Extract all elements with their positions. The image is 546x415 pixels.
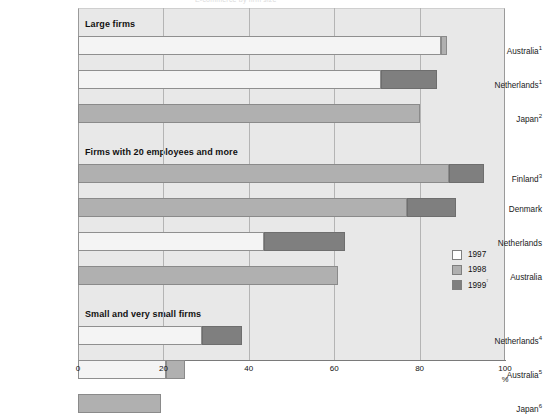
bar-segment-1999	[407, 198, 456, 217]
bar-segment-1998	[166, 360, 185, 379]
plot-area: Large firmsFirms with 20 employees and m…	[78, 8, 505, 360]
legend: 199719981999⁷	[452, 248, 488, 293]
x-tick-60: 60	[330, 364, 339, 373]
gridline-60	[334, 8, 335, 360]
legend-swatch-1997	[452, 250, 462, 260]
chart-title-clipped: E-commerce by firm size	[195, 0, 395, 4]
bar-segment-1998	[78, 266, 338, 285]
legend-item: 1997	[452, 248, 488, 261]
bar-row	[0, 360, 546, 379]
bar-segment-1999	[264, 232, 345, 251]
bar-segment-1997	[78, 360, 166, 379]
legend-label: 1998	[468, 265, 486, 274]
bar-segment-1999	[449, 164, 483, 183]
gridline-20	[163, 8, 164, 360]
group-header-1: Firms with 20 employees and more	[85, 147, 238, 157]
bar-segment-1998	[78, 104, 420, 123]
bar-segment-1998	[441, 36, 447, 55]
bar-segment-1997	[78, 36, 441, 55]
bar-segment-1999	[381, 70, 437, 89]
group-header-0: Large firms	[85, 19, 135, 29]
x-tick-40: 40	[244, 364, 253, 373]
x-tick-0: 0	[76, 364, 80, 373]
legend-swatch-1999	[452, 280, 462, 290]
x-tick-100: 100	[498, 364, 511, 373]
legend-label: 1997	[468, 250, 486, 259]
bar-segment-1997	[78, 70, 381, 89]
bar-row	[0, 198, 546, 217]
gridline-40	[249, 8, 250, 360]
bar-row	[0, 70, 546, 89]
bar-row	[0, 36, 546, 55]
legend-label: 1999⁷	[468, 279, 488, 290]
legend-item: 1998	[452, 263, 488, 276]
legend-swatch-1998	[452, 265, 462, 275]
legend-item: 1999⁷	[452, 278, 488, 291]
x-axis-unit: %	[502, 375, 509, 384]
bar-segment-1998	[78, 164, 449, 183]
bar-row	[0, 104, 546, 123]
x-tick-80: 80	[415, 364, 424, 373]
bar-segment-1998	[78, 198, 407, 217]
gridline-80	[420, 8, 421, 360]
group-header-2: Small and very small firms	[85, 309, 201, 319]
bar-row	[0, 326, 546, 345]
bar-segment-1997	[78, 232, 264, 251]
x-tick-20: 20	[159, 364, 168, 373]
bar-segment-1999	[202, 326, 243, 345]
bar-segment-1997	[78, 326, 202, 345]
bar-row	[0, 394, 546, 413]
bar-segment-1998	[78, 394, 161, 413]
bar-row	[0, 164, 546, 183]
